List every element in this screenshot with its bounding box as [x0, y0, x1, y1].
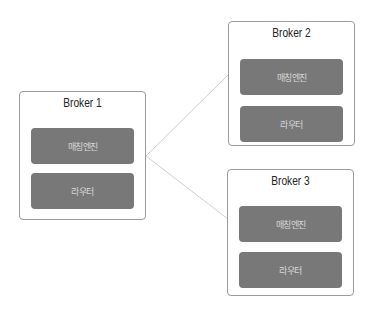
broker-3-router: 라우터: [239, 252, 342, 288]
broker-2-router: 라우터: [240, 106, 343, 142]
connection-broker1-broker2: [146, 75, 228, 156]
broker-1-router: 라우터: [31, 173, 134, 209]
broker-1-box: Broker 1 매칭엔진 라우터: [19, 91, 146, 220]
broker-3-title: Broker 3: [237, 174, 343, 188]
broker-2-matching-engine: 매칭엔진: [240, 59, 343, 95]
connection-broker1-broker3: [146, 156, 228, 219]
broker-2-box: Broker 2 매칭엔진 라우터: [228, 21, 355, 146]
broker-3-matching-engine: 매칭엔진: [239, 206, 342, 242]
broker-1-matching-engine: 매칭엔진: [31, 128, 134, 164]
broker-3-box: Broker 3 매칭엔진 라우터: [227, 169, 354, 296]
broker-2-title: Broker 2: [238, 26, 344, 40]
broker-1-title: Broker 1: [29, 96, 135, 110]
